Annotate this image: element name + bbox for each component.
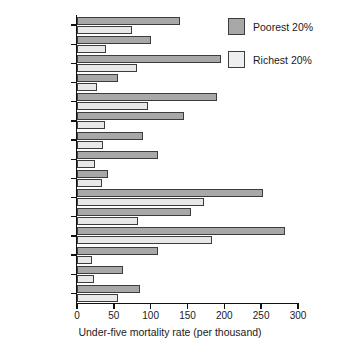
- bar-richest: [77, 26, 132, 34]
- x-tick-label: 200: [204, 310, 244, 322]
- bar-poorest: [77, 227, 285, 235]
- y-tick: [71, 82, 76, 83]
- y-tick: [71, 63, 76, 64]
- bar-richest: [77, 83, 97, 91]
- bar-richest: [77, 121, 105, 129]
- x-tick-label: 300: [278, 310, 318, 322]
- bar-poorest: [77, 55, 221, 63]
- bar-richest: [77, 236, 212, 244]
- bar-poorest: [77, 112, 184, 120]
- y-tick: [71, 235, 76, 236]
- bar-richest: [77, 141, 103, 149]
- bar-poorest: [77, 17, 180, 25]
- bar-richest: [77, 64, 137, 72]
- x-tick: [76, 304, 77, 309]
- bar-richest: [77, 102, 148, 110]
- y-tick: [71, 101, 76, 102]
- legend-label-poorest: Poorest 20%: [253, 21, 313, 33]
- chart-legend: Poorest 20% Richest 20%: [228, 18, 313, 84]
- chart-container: 050100150200250300 BangladeshBrazilCamer…: [0, 0, 340, 355]
- x-tick: [297, 304, 298, 309]
- x-tick-label: 0: [57, 310, 97, 322]
- x-tick-label: 100: [131, 310, 171, 322]
- bar-poorest: [77, 189, 263, 197]
- bar-poorest: [77, 74, 118, 82]
- bar-poorest: [77, 93, 217, 101]
- y-tick: [71, 178, 76, 179]
- x-tick: [260, 304, 261, 309]
- x-tick: [113, 304, 114, 309]
- bar-richest: [77, 179, 102, 187]
- legend-swatch-richest: [228, 51, 245, 68]
- legend-item-poorest: Poorest 20%: [228, 18, 313, 35]
- y-tick: [71, 197, 76, 198]
- x-tick-label: 150: [168, 310, 208, 322]
- bar-poorest: [77, 247, 158, 255]
- bar-poorest: [77, 151, 158, 159]
- bar-richest: [77, 160, 95, 168]
- x-axis-label: Under-five mortality rate (per thousand): [0, 326, 340, 338]
- legend-label-richest: Richest 20%: [253, 54, 312, 66]
- x-tick-label: 50: [94, 310, 134, 322]
- bar-poorest: [77, 36, 151, 44]
- y-tick: [71, 274, 76, 275]
- y-tick: [71, 44, 76, 45]
- y-tick: [71, 120, 76, 121]
- bar-richest: [77, 198, 204, 206]
- bar-richest: [77, 217, 138, 225]
- bar-poorest: [77, 285, 140, 293]
- x-tick: [150, 304, 151, 309]
- bar-richest: [77, 294, 118, 302]
- y-tick: [71, 24, 76, 25]
- bar-poorest: [77, 266, 123, 274]
- y-tick: [71, 293, 76, 294]
- x-tick: [187, 304, 188, 309]
- y-tick: [71, 254, 76, 255]
- legend-swatch-poorest: [228, 18, 245, 35]
- y-tick: [71, 159, 76, 160]
- x-tick: [224, 304, 225, 309]
- x-tick-label: 250: [241, 310, 281, 322]
- bar-poorest: [77, 208, 191, 216]
- bar-richest: [77, 45, 106, 53]
- bar-poorest: [77, 170, 108, 178]
- y-tick: [71, 139, 76, 140]
- y-tick: [71, 216, 76, 217]
- bar-richest: [77, 256, 92, 264]
- bar-richest: [77, 275, 94, 283]
- legend-item-richest: Richest 20%: [228, 51, 313, 68]
- bar-poorest: [77, 132, 143, 140]
